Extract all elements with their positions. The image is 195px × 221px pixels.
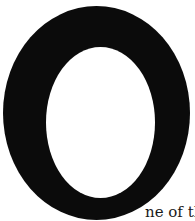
drop-cap-counter bbox=[46, 47, 155, 198]
paragraph-text: ne of the bbox=[145, 203, 195, 221]
drop-cap-glyph bbox=[3, 6, 190, 220]
